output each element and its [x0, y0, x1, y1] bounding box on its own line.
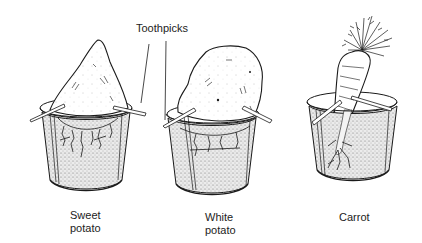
sweet-potato-label: Sweet potato	[70, 209, 101, 235]
sweet-potato-illustration	[30, 40, 146, 191]
toothpicks-label: Toothpicks	[136, 22, 188, 35]
white-potato-label-line2: potato	[205, 224, 236, 237]
white-potato-label-line1: White	[205, 211, 236, 224]
carrot-label-line1: Carrot	[339, 211, 370, 224]
sweet-potato-label-line2: potato	[70, 222, 101, 235]
carrot-illustration	[307, 16, 397, 181]
carrot-leaves	[342, 16, 392, 56]
sweet-potato-label-line1: Sweet	[70, 209, 101, 222]
carrot-label: Carrot	[339, 211, 370, 224]
toothpicks-label-text: Toothpicks	[136, 22, 188, 35]
white-potato-illustration	[163, 46, 272, 195]
white-potato-label: White potato	[205, 211, 236, 237]
diagram-canvas	[0, 0, 422, 243]
toothpicks-leader-lines	[141, 41, 166, 120]
